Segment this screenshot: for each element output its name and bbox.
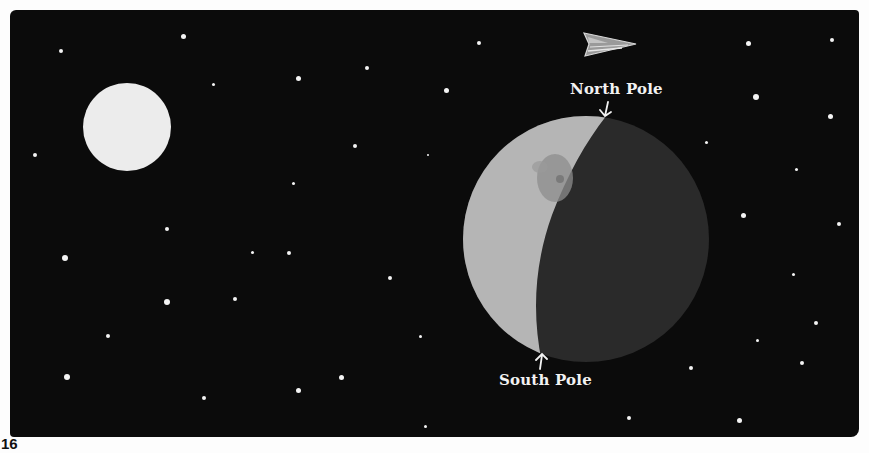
book-page: North Pole South Pole 16 [0,0,869,453]
star [296,388,301,393]
star [444,88,449,93]
star [746,41,751,46]
space-illustration: North Pole South Pole [10,10,859,437]
star [106,334,110,338]
star [181,34,186,39]
star [753,94,759,100]
page-number: 16 [1,435,18,452]
star [741,213,746,218]
north-pole-label: North Pole [570,80,663,98]
star [33,153,37,157]
star [251,251,254,254]
star [814,321,818,325]
star [837,222,841,226]
moon [462,115,710,363]
star [427,154,429,156]
star [388,276,392,280]
star [62,255,68,261]
star [737,418,742,423]
star [164,299,170,305]
star [64,374,70,380]
star [419,335,422,338]
star [339,375,344,380]
star [756,339,759,342]
star [795,168,798,171]
sun [83,83,171,171]
star [477,41,481,45]
star [165,227,169,231]
star [424,425,427,428]
star [689,366,693,370]
star [828,114,833,119]
star [59,49,63,53]
star [627,416,631,420]
up-arrow-icon [533,352,549,370]
moon-mare [537,154,573,202]
star [233,297,237,301]
spaceship-icon [582,31,638,58]
star [287,251,291,255]
star [296,76,301,81]
star [830,38,834,42]
down-arrow-icon [598,101,614,119]
star [292,182,295,185]
south-pole-label: South Pole [499,371,592,389]
star [800,361,804,365]
star [212,83,215,86]
star [365,66,369,70]
star [792,273,795,276]
star [202,396,206,400]
star [353,144,357,148]
